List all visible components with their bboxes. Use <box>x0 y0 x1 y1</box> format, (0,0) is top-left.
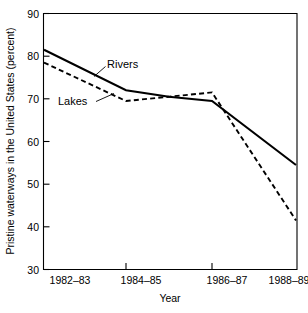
x-tick-label-1986-87: 1986–87 <box>207 274 248 286</box>
plot-border <box>44 14 298 270</box>
x-axis-title: Year <box>159 292 181 304</box>
x-tick-label-1988-89: 1988–89 <box>269 274 308 286</box>
chart-figure: 30 40 50 60 70 80 90 1982–83 1984–85 198… <box>0 0 308 313</box>
x-tick-label-1982-83: 1982–83 <box>50 274 91 286</box>
y-tick-label-80: 80 <box>27 50 39 62</box>
y-axis-tick-labels: 30 40 50 60 70 80 90 <box>27 8 39 276</box>
y-tick-label-70: 70 <box>27 93 39 105</box>
x-axis-tick-labels: 1982–83 1984–85 1986–87 1988–89 <box>50 274 308 286</box>
line-chart: 30 40 50 60 70 80 90 1982–83 1984–85 198… <box>0 0 308 313</box>
y-tick-label-40: 40 <box>27 221 39 233</box>
y-axis-title: Pristine waterways in the United States … <box>4 27 16 254</box>
x-axis-ticks <box>126 263 212 270</box>
x-tick-label-1984-85: 1984–85 <box>121 274 162 286</box>
y-tick-label-30: 30 <box>27 264 39 276</box>
series-label-rivers: Rivers <box>107 58 139 70</box>
series-line-lakes <box>44 63 296 221</box>
y-tick-label-90: 90 <box>27 8 39 20</box>
y-tick-label-60: 60 <box>27 136 39 148</box>
annotation-lakes: Lakes <box>58 94 114 108</box>
leader-line-lakes <box>96 94 114 102</box>
series-line-rivers <box>44 50 296 165</box>
series-label-lakes: Lakes <box>58 95 88 107</box>
leader-line-rivers <box>94 67 106 77</box>
annotation-rivers: Rivers <box>94 58 139 77</box>
y-tick-label-50: 50 <box>27 178 39 190</box>
plot-frame <box>44 14 298 270</box>
